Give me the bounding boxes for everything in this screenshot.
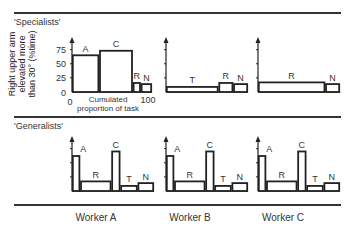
bar-label: A [83,44,89,54]
bar-N [138,183,153,191]
arrow-up-icon [70,37,75,43]
arrow-up-icon [256,136,261,142]
bar-label: R [279,170,286,180]
bar-C [298,151,305,191]
bar-label: N [143,172,150,182]
arrow-up-icon [256,37,261,43]
bar-A [167,156,174,191]
bar-N [324,183,339,191]
bar-N [142,84,152,92]
x-start-label: 0 [67,97,72,107]
bar-R [175,181,205,191]
x-axis-label: Cumulated [89,95,128,104]
bar-N [234,84,247,92]
bar-label: T [126,174,132,184]
bar-R [219,83,232,92]
bar-label: N [329,73,336,83]
bar-T [167,87,218,92]
bar-label: C [207,140,214,150]
bar-R [259,82,325,92]
bar-C [112,151,119,191]
bar-R [134,83,140,92]
bar-label: N [237,73,244,83]
chart-canvas: 02550750100Cumulatedproportion of taskAC… [0,0,354,234]
bar-label: T [220,174,226,184]
bar-label: C [113,39,120,49]
bar-C [206,151,213,191]
bar-label: A [80,144,86,154]
bar-label: T [312,174,318,184]
bar-N [232,183,247,191]
bar-T [121,186,137,191]
bar-label: R [288,71,295,81]
x-end-label: 100 [140,95,155,105]
bar-label: C [299,140,306,150]
bar-T [307,186,323,191]
bar-A [73,156,80,191]
bar-label: A [174,144,180,154]
y-tick-label: 50 [56,59,66,69]
arrow-up-icon [70,136,75,142]
x-axis-label: proportion of task [77,104,140,113]
bar-label: N [237,172,244,182]
bar-label: R [223,71,230,81]
y-tick-label: 25 [56,73,66,83]
bar-T [215,186,231,191]
bar-label: A [266,144,272,154]
y-tick-label: 0 [61,88,66,98]
bar-label: R [134,71,141,81]
bar-label: N [329,172,336,182]
bar-label: T [189,75,195,85]
arrow-up-icon [164,37,169,43]
bar-N [326,84,339,92]
bar-label: R [187,170,194,180]
bar-C [100,51,132,92]
y-tick-label: 75 [56,45,66,55]
bar-R [267,181,297,191]
bar-A [259,156,266,191]
bar-label: C [113,140,120,150]
arrow-up-icon [164,136,169,142]
bar-A [73,55,99,92]
bar-label: N [143,73,150,83]
bar-label: R [93,170,100,180]
bar-R [81,181,111,191]
